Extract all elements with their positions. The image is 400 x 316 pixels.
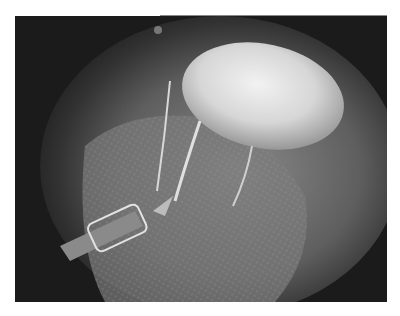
scene-graphic [15,16,387,302]
endoscopic-image [15,16,387,302]
